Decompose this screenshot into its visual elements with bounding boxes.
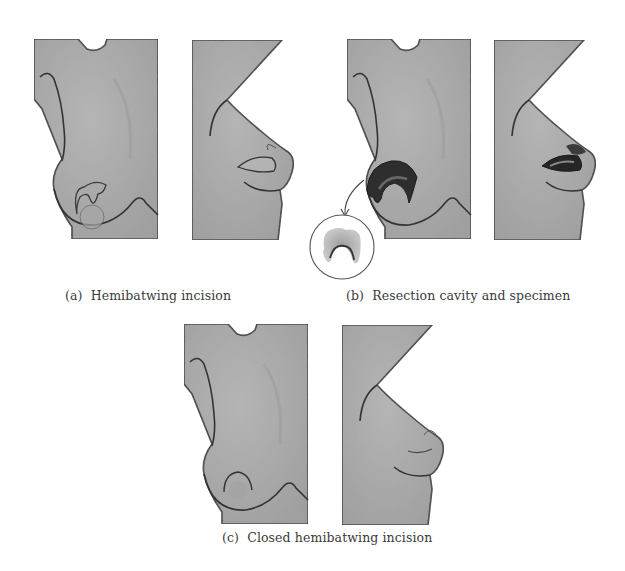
- caption-a: (a) Hemibatwing incision: [65, 288, 231, 303]
- panel-b-frontal-view: [347, 39, 471, 239]
- panel-c-lateral-view: [342, 325, 443, 525]
- caption-a-label: (a): [65, 288, 83, 303]
- panel-c: [184, 324, 443, 525]
- caption-b-text: Resection cavity and specimen: [372, 288, 570, 303]
- caption-c-text: Closed hemibatwing incision: [247, 530, 432, 545]
- panel-a: [34, 39, 293, 240]
- caption-b: (b) Resection cavity and specimen: [346, 288, 570, 303]
- figure-canvas: [0, 0, 625, 571]
- specimen-arrow: [345, 180, 364, 214]
- panel-b-lateral-view: [494, 40, 595, 240]
- panel-a-lateral-view: [192, 40, 293, 240]
- panel-b: [310, 39, 595, 279]
- caption-c: (c) Closed hemibatwing incision: [222, 530, 432, 545]
- caption-c-label: (c): [222, 530, 239, 545]
- caption-b-label: (b): [346, 288, 364, 303]
- caption-a-text: Hemibatwing incision: [91, 288, 231, 303]
- panel-a-frontal-view: [34, 39, 158, 239]
- panel-c-frontal-view: [184, 324, 308, 524]
- specimen-inset: [310, 215, 374, 279]
